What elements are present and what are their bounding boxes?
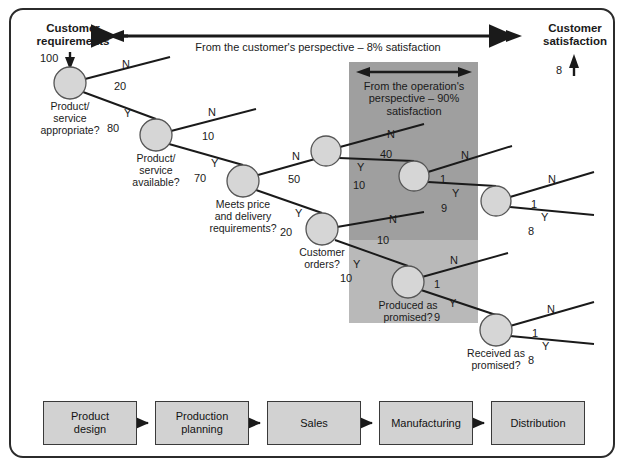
branch-answer-n9-N: N <box>547 303 555 315</box>
page-title-customer-satisfaction: Customer satisfaction <box>528 22 622 48</box>
branch-value-n2-N: 10 <box>202 130 214 142</box>
node-unlabeled-upper-3 <box>481 186 511 216</box>
node-product-service-appropriate <box>54 67 86 99</box>
branch-answer-n4-Y: Y <box>357 161 364 173</box>
node-label-produced-as-promised: Produced as promised? <box>355 300 461 324</box>
branch-value-n6-N: 1 <box>531 198 537 210</box>
branch-answer-n4-N: N <box>387 128 395 140</box>
node-unlabeled-upper-2 <box>399 161 429 191</box>
branch-value-n9-Y: 8 <box>528 354 534 366</box>
branch-answer-n1-N: N <box>122 58 130 70</box>
branch-value-n4-Y: 10 <box>353 179 365 191</box>
node-label-product-service-appropriate: Product/ service appropriate? <box>23 101 117 136</box>
branch-value-n7-Y: 10 <box>340 272 352 284</box>
branch-answer-n5-Y: Y <box>452 187 459 199</box>
process-box-production-planning[interactable]: Production planning <box>155 401 249 445</box>
branch-answer-n2-N: N <box>208 106 216 118</box>
branch-answer-n7-N: N <box>389 213 397 225</box>
operation-perspective-note: From the operation's perspective – 90% s… <box>352 80 476 117</box>
process-box-distribution[interactable]: Distribution <box>491 401 585 445</box>
branch-value-n9-N: 1 <box>532 327 538 339</box>
branch-value-n5-Y: 9 <box>441 202 447 214</box>
node-produced-as-promised <box>392 266 424 298</box>
branch-answer-n9-Y: Y <box>542 340 549 352</box>
branch-value-n8-N: 1 <box>434 278 440 290</box>
branch-value-n4-N: 40 <box>380 148 392 160</box>
branch-value-n8-Y: 9 <box>434 311 440 323</box>
branch-answer-n7-Y: Y <box>353 258 360 270</box>
branch-value-n3-N: 50 <box>288 173 300 185</box>
page-title-customer-requirements: Customer requirements <box>18 22 128 48</box>
input-value: 100 <box>40 52 58 64</box>
branch-lines <box>83 57 594 344</box>
node-unlabeled-upper-1 <box>311 136 341 166</box>
node-product-service-available <box>140 119 172 151</box>
branch-answer-n8-N: N <box>450 254 458 266</box>
branch-answer-n3-N: N <box>292 150 300 162</box>
process-box-manufacturing[interactable]: Manufacturing <box>379 401 473 445</box>
branch-answer-n5-N: N <box>461 149 469 161</box>
branch-answer-n8-Y: Y <box>449 297 456 309</box>
node-label-product-service-available: Product/ service available? <box>109 153 203 188</box>
branch-value-n2-Y: 70 <box>194 172 206 184</box>
node-customer-orders <box>306 213 338 245</box>
branch-answer-n3-Y: Y <box>295 207 302 219</box>
process-box-sales[interactable]: Sales <box>267 401 361 445</box>
branch-value-n6-Y: 8 <box>528 225 534 237</box>
branch-answer-n6-N: N <box>548 173 556 185</box>
figure-canvas: Customer requirements Customer satisfact… <box>0 0 627 471</box>
process-box-product-design[interactable]: Product design <box>43 401 137 445</box>
customer-perspective-note: From the customer's perspective – 8% sat… <box>160 41 476 53</box>
branch-answer-n1-Y: Y <box>124 107 131 119</box>
node-received-as-promised <box>480 314 512 346</box>
branch-value-n7-N: 10 <box>377 234 389 246</box>
branch-value-n3-Y: 20 <box>280 226 292 238</box>
branch-value-n1-Y: 80 <box>107 122 119 134</box>
branch-answer-n2-Y: Y <box>211 157 218 169</box>
branch-answer-n6-Y: Y <box>541 211 548 223</box>
output-value: 8 <box>556 64 562 76</box>
branch-value-n1-N: 20 <box>114 80 126 92</box>
branch-value-n5-N: 1 <box>440 173 446 185</box>
node-meets-price-and-delivery <box>227 165 259 197</box>
